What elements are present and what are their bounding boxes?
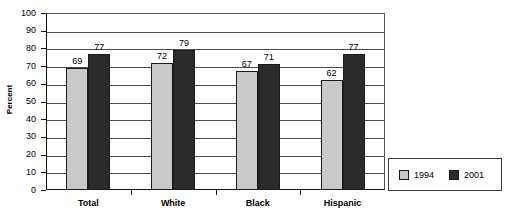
x-axis-label: White xyxy=(133,198,213,208)
legend-item[interactable]: 2001 xyxy=(449,168,484,182)
bar[interactable] xyxy=(236,71,258,190)
legend: 19942001 xyxy=(388,158,502,191)
legend-swatch-icon xyxy=(399,170,409,180)
x-axis-label: Hispanic xyxy=(303,198,383,208)
legend-label: 1994 xyxy=(414,171,434,180)
bar-value-label: 77 xyxy=(84,43,114,52)
y-tick-label: 80 xyxy=(8,44,36,53)
bar[interactable] xyxy=(66,68,88,190)
y-tick-label: 0 xyxy=(8,186,36,195)
bar-group: 6977 xyxy=(66,13,110,190)
bar-value-label: 79 xyxy=(169,39,199,48)
x-tick-mark xyxy=(300,190,301,195)
legend-swatch-icon xyxy=(449,170,459,180)
x-axis-label: Total xyxy=(48,198,128,208)
legend-label: 2001 xyxy=(464,171,484,180)
y-tick-label: 30 xyxy=(8,132,36,141)
bar-chart: Percent 1009080706050403020100 697772796… xyxy=(0,0,507,220)
bar[interactable] xyxy=(321,80,343,190)
x-axis xyxy=(46,190,385,196)
bar[interactable] xyxy=(343,54,365,190)
y-tick-label: 50 xyxy=(8,97,36,106)
bar[interactable] xyxy=(88,54,110,190)
y-tick-label: 20 xyxy=(8,150,36,159)
bar-group: 7279 xyxy=(151,13,195,190)
bar-value-label: 77 xyxy=(339,43,369,52)
bar-group: 6277 xyxy=(321,13,365,190)
bar[interactable] xyxy=(258,64,280,190)
legend-item[interactable]: 1994 xyxy=(399,168,434,182)
y-tick-label: 40 xyxy=(8,115,36,124)
bar[interactable] xyxy=(173,50,195,190)
y-tick-label: 70 xyxy=(8,62,36,71)
y-tick-label: 100 xyxy=(8,9,36,18)
bar-value-label: 71 xyxy=(254,53,284,62)
bar[interactable] xyxy=(151,63,173,190)
bar-group: 6771 xyxy=(236,13,280,190)
bars-layer: 6977727967716277 xyxy=(46,13,385,190)
x-axis-label: Black xyxy=(218,198,298,208)
y-tick-label: 10 xyxy=(8,168,36,177)
y-tick-label: 90 xyxy=(8,26,36,35)
y-tick-label: 60 xyxy=(8,79,36,88)
x-tick-mark xyxy=(216,190,217,195)
x-tick-mark xyxy=(131,190,132,195)
